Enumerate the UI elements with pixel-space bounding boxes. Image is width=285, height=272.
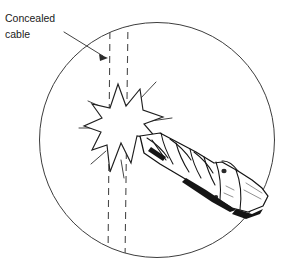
spark-line [91, 151, 106, 164]
concealed-cable-figure: Concealed cable [0, 0, 285, 272]
callout-label-line-2: cable [5, 28, 30, 40]
impact-burst-group [79, 82, 172, 178]
chuck-jaw-dot [221, 169, 226, 173]
illustration-canvas: Concealed cable [0, 0, 285, 272]
drill-bit-outline [140, 133, 268, 212]
impact-burst-star [84, 84, 163, 172]
callout-leader-line [64, 32, 103, 56]
spark-line [121, 160, 124, 178]
drill-group [140, 133, 268, 219]
callout-arrowhead-icon [99, 54, 108, 61]
callout-label-line-1: Concealed [5, 12, 55, 24]
spark-line [140, 82, 156, 99]
